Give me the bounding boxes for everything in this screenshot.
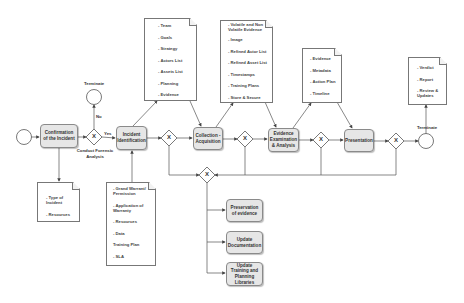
doc-outcome: - Verdict - Report - Review & Updates xyxy=(408,57,447,105)
task-presentation[interactable]: Presentation xyxy=(344,129,374,152)
terminate-right-label: Terminate xyxy=(416,125,438,130)
doc-item: - Resources xyxy=(46,212,75,217)
doc-item: - Report xyxy=(417,77,442,82)
doc-item: - Action Plan xyxy=(310,79,337,84)
gateway-x-icon: X xyxy=(90,133,98,139)
doc-item: - Resources xyxy=(113,219,151,224)
terminate-top-label: Terminate xyxy=(84,81,104,86)
doc-planning: - Team - Goals - Strategy - Actors List … xyxy=(144,18,197,101)
doc-incident-info: - Type of Incident - Resources xyxy=(37,182,80,222)
doc-item: - Planning xyxy=(158,81,192,86)
doc-item: - Team xyxy=(158,23,192,28)
doc-item: - Store & Secure xyxy=(228,95,268,100)
doc-item: - Refined Actor List xyxy=(228,49,268,54)
doc-item: Training Plan xyxy=(113,242,151,247)
terminate-right-event xyxy=(419,134,434,149)
doc-item: - Evidence xyxy=(158,92,192,97)
doc-item: - Assets List xyxy=(158,69,192,74)
subtask-update-libraries[interactable]: Update Training and Planning Libraries xyxy=(226,262,263,286)
doc-item: - Training Plans xyxy=(228,83,268,88)
task-identification[interactable]: Incident Identification xyxy=(116,126,147,150)
doc-warrant: - Grand Warrant/ Permission - Applicatio… xyxy=(106,182,156,266)
gateway-forensic-label: Conduct Forensic Analysis xyxy=(76,148,114,160)
doc-item: - Goals xyxy=(158,35,192,40)
flow-label-yes: Yes xyxy=(104,131,111,136)
doc-item: - Type of Incident xyxy=(46,195,75,205)
doc-collection: - Volatile and Non Volatile Evidence - I… xyxy=(220,20,273,103)
subtask-update-documentation[interactable]: Update Documentation xyxy=(226,231,263,254)
terminate-top-event xyxy=(87,90,102,105)
doc-item: - Actors List xyxy=(158,58,192,63)
doc-item: - SLA xyxy=(113,254,151,259)
doc-item: - Timeline xyxy=(310,91,337,96)
gateway-x-icon: X xyxy=(165,134,173,140)
doc-item: - Evidence xyxy=(310,56,337,61)
forensic-process-diagram: X X X X X X Conduct Forensic Analysis Te… xyxy=(0,0,464,303)
gateway-x-icon: X xyxy=(241,135,249,141)
gateway-x-icon: X xyxy=(317,136,325,142)
doc-item: - Image xyxy=(228,37,268,42)
gateway-x-icon: X xyxy=(203,171,211,177)
doc-item: - Grand Warrant/ Permission xyxy=(113,186,151,196)
doc-item: - Strategy xyxy=(158,46,192,51)
start-event xyxy=(17,130,32,145)
doc-item: - Volatile and Non Volatile Evidence xyxy=(228,22,264,32)
doc-item: - Timestamps xyxy=(228,72,268,77)
task-collection[interactable]: Collection - Acquisition xyxy=(193,127,223,150)
task-examination[interactable]: Evidence Examination & Analysis xyxy=(268,128,299,152)
subtask-preservation[interactable]: Preservation of evidence xyxy=(226,199,263,222)
doc-item: - Refined Asset List xyxy=(228,60,268,65)
task-confirmation[interactable]: Confirmation of the Incident xyxy=(40,124,78,148)
doc-item: - Application of Warranty xyxy=(113,203,151,213)
doc-item: - Verdict xyxy=(417,65,442,70)
doc-item: - Review & Updates xyxy=(417,88,441,98)
doc-analysis: - Evidence - Metadata - Action Plan - Ti… xyxy=(302,48,342,103)
doc-item: - Metadata xyxy=(310,68,337,73)
gateway-x-icon: X xyxy=(392,137,400,143)
flow-label-no: No xyxy=(96,114,102,119)
doc-item: - Data xyxy=(113,231,151,236)
